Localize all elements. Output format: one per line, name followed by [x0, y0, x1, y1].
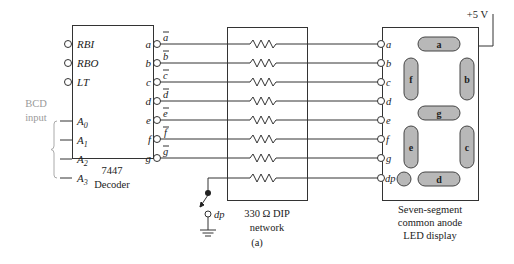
display-pin-bubbles [378, 41, 385, 182]
svg-text:f: f [148, 133, 153, 145]
svg-text:c: c [386, 77, 391, 88]
supply-label: +5 V [467, 9, 489, 20]
svg-text:e: e [146, 114, 151, 126]
svg-text:g: g [386, 153, 391, 164]
figure-caption: (a) [251, 237, 263, 249]
active-low-output-labels: a b c d e f g [163, 32, 169, 157]
decoder-part: 7447 [102, 165, 123, 176]
a2-label: A2 [76, 153, 88, 168]
resistor-network-box [228, 28, 308, 201]
a1-label: A1 [76, 134, 88, 149]
bcd-to-7seg-circuit: a b c d e f g RBI RBO LT A0 A1 A2 A3 BCD… [0, 0, 514, 264]
svg-text:a: a [386, 39, 391, 50]
rbo-bubble [65, 60, 72, 67]
dp-wire [208, 178, 250, 193]
resistors [250, 40, 378, 182]
decoder-name: Decoder [94, 179, 130, 190]
dp-switch-contact [205, 211, 211, 217]
svg-text:e: e [163, 108, 168, 119]
svg-text:c: c [163, 70, 168, 81]
bcd-label: BCD [25, 98, 47, 109]
svg-text:f: f [164, 127, 169, 138]
svg-text:g: g [163, 146, 168, 157]
seven-segment-display: a b c d e f g [397, 37, 474, 186]
svg-text:c: c [465, 142, 470, 153]
rbi-label: RBI [76, 38, 95, 50]
svg-text:e: e [386, 115, 391, 126]
resistor-network-label: 330 Ω DIP [244, 208, 290, 219]
svg-text:b: b [146, 57, 152, 69]
display-label-2: common anode [398, 217, 463, 228]
dp-switch-label: dp [214, 209, 225, 220]
input-label: input [25, 112, 47, 123]
display-label-1: Seven-segment [398, 204, 462, 215]
display-pin-labels: a b c d e f g dp [385, 39, 396, 184]
svg-text:dp: dp [385, 173, 396, 184]
svg-text:a: a [163, 32, 168, 43]
display-label-3: LED display [403, 230, 457, 241]
svg-text:d: d [146, 95, 152, 107]
svg-text:e: e [409, 142, 414, 153]
segment-dp [397, 172, 411, 186]
svg-text:a: a [146, 38, 152, 50]
a3-label: A3 [76, 172, 88, 187]
svg-text:a: a [437, 39, 442, 50]
svg-text:b: b [464, 74, 470, 85]
lt-bubble [65, 79, 72, 86]
svg-text:c: c [146, 76, 151, 88]
dp-switch-pivot [205, 190, 211, 196]
rbi-bubble [65, 41, 72, 48]
svg-text:d: d [163, 89, 169, 100]
svg-text:b: b [386, 58, 391, 69]
svg-text:g: g [437, 108, 442, 119]
svg-text:g: g [146, 152, 152, 164]
svg-text:d: d [436, 174, 442, 185]
svg-text:f: f [386, 134, 391, 145]
resistor-network-sublabel: network [250, 222, 285, 233]
a0-label: A0 [76, 115, 88, 130]
bcd-brace [51, 121, 57, 178]
svg-text:b: b [163, 51, 168, 62]
svg-text:d: d [386, 96, 392, 107]
rbo-label: RBO [76, 57, 98, 69]
lt-label: LT [76, 76, 90, 88]
